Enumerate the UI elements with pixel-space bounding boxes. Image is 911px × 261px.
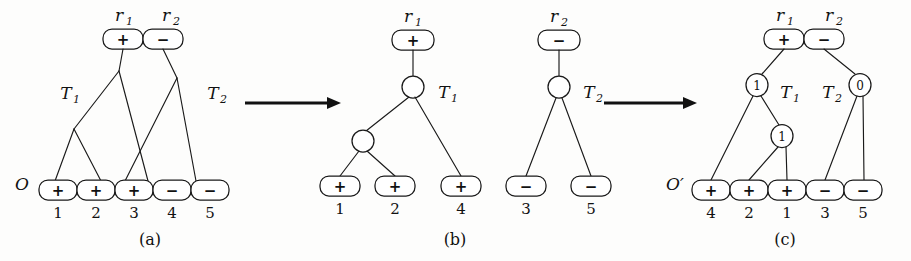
arrow-b-to-c	[604, 97, 697, 109]
panel-c-leaf-index-1: 4	[706, 204, 716, 222]
panel-c-edge-t2root-leaf3	[825, 96, 857, 180]
r2-label-sub: 2	[172, 15, 180, 28]
r1-label-sub: 1	[126, 15, 133, 28]
panel-c-T2-sub: 2	[834, 92, 842, 105]
panel-c-edge-root1-t1node	[762, 49, 784, 74]
panel-b-leaf-index-1: 1	[335, 200, 345, 218]
panel-a-edge-inner-leaf1	[55, 129, 74, 181]
panel-c-leaf-index-3: 1	[782, 204, 792, 222]
panel-a-edge-apex2-leaf4	[125, 78, 177, 181]
panel-a: r 1 r 2 + − T 1 T 2 O	[15, 5, 229, 249]
panel-c-leaf-index-4: 3	[820, 204, 830, 222]
panel-c-r1-sub: 1	[787, 15, 794, 28]
panel-c-edge-t1child-leaf1	[786, 147, 787, 180]
panel-b-leaf-sign-5: −	[585, 178, 598, 196]
panel-b-edge-t1child-leaf1	[340, 151, 359, 176]
panel-b-leaf-index-5: 5	[586, 200, 596, 218]
panel-b-root-label-r2: r 2	[550, 6, 568, 29]
panel-b-T1-text: T	[438, 82, 451, 102]
panel-a-leaf-index-4: 4	[167, 204, 177, 222]
panel-c-r1-text: r	[776, 5, 785, 25]
panel-c-leaf-sign-1: +	[705, 182, 718, 200]
arrow-a-to-b	[245, 97, 341, 109]
panel-b-T1-sub: 1	[451, 92, 458, 105]
panel-a-leaf-sign-5: −	[204, 182, 217, 200]
panel-a-leaf-sign-1: +	[52, 182, 65, 200]
panel-b-r2-text: r	[550, 6, 559, 26]
panel-a-leaf-index-2: 2	[91, 204, 101, 222]
panel-b-internal-node-t1-root[interactable]	[402, 76, 424, 98]
panel-c-r2-sub: 2	[835, 15, 843, 28]
panel-b-edge-t2root-leaf5	[562, 98, 591, 176]
panel-b-edge-t1child-leaf2	[367, 151, 395, 176]
panel-c-leaf-sign-5: −	[857, 182, 870, 200]
r2-label-text: r	[162, 5, 171, 25]
T1-label-text: T	[60, 83, 73, 103]
panel-c-sequence-label: O′	[666, 174, 684, 194]
panel-c-T1-text: T	[780, 82, 793, 102]
panel-b-internal-node-t2-root[interactable]	[548, 76, 570, 98]
panel-a-sequence-label: O	[15, 174, 29, 194]
panel-c-edge-t1child-leaf2	[749, 147, 778, 180]
arrow-b-to-c-head-icon	[683, 97, 697, 109]
panel-a-edge-apex2-leaf5	[177, 78, 196, 181]
panel-a-leaf-sign-2: +	[90, 182, 103, 200]
panel-b-T2-sub: 2	[595, 92, 603, 105]
panel-b-root-label-r1: r 1	[404, 6, 422, 29]
panel-b-r1-text: r	[404, 6, 413, 26]
panel-b-r2-sub: 2	[560, 16, 568, 29]
panel-c-root-label-r1: r 1	[776, 5, 794, 28]
panel-c-root-label-r2: r 2	[825, 5, 843, 28]
panel-c-leaf-index-2: 2	[744, 204, 754, 222]
panel-b-tree-label-T2: T 2	[583, 82, 603, 105]
T1-label-sub: 1	[73, 93, 80, 106]
panel-b-leaf-index-4: 4	[456, 200, 466, 218]
panel-c-internal-node-t1-root-value: 1	[753, 79, 761, 93]
panel-c: r 1 r 2 + − 1 0 1 T 1	[666, 5, 882, 249]
panel-c-leaf-sign-2: +	[743, 182, 756, 200]
panel-a-caption: (a)	[139, 230, 161, 249]
panel-a-root-label-r1: r 1	[115, 5, 133, 28]
panel-c-leaf-index-5: 5	[858, 204, 868, 222]
panel-c-r2-text: r	[825, 5, 834, 25]
panel-b: r 1 r 2 + − T 1 T 2	[320, 6, 611, 249]
panel-c-edge-t1root-t1child	[761, 96, 779, 125]
T2-label-sub: 2	[219, 93, 227, 106]
panel-c-edge-t2root-leaf5	[863, 96, 864, 180]
T2-label-text: T	[207, 83, 220, 103]
panel-c-internal-node-t1-child-value: 1	[778, 130, 786, 144]
figure-svg: r 1 r 2 + − T 1 T 2 O	[0, 0, 911, 261]
panel-b-leaf-index-2: 2	[390, 200, 400, 218]
panel-c-caption: (c)	[774, 230, 795, 249]
panel-a-leaf-index-1: 1	[53, 204, 63, 222]
panel-a-leaf-index-5: 5	[205, 204, 215, 222]
panel-b-leaf-sign-2: +	[389, 178, 402, 196]
panel-c-tree-label-T1: T 1	[780, 82, 800, 105]
panel-b-internal-node-t1-child[interactable]	[352, 130, 374, 152]
panel-a-tree-label-T1: T 1	[60, 83, 80, 106]
panel-c-tree-label-T2: T 2	[822, 82, 842, 105]
panel-b-edge-t1root-t1child	[366, 97, 409, 131]
panel-a-leaf-index-3: 3	[129, 204, 139, 222]
panel-b-r1-sub: 1	[415, 16, 422, 29]
r1-label-text: r	[115, 5, 124, 25]
panel-c-edge-t1root-leaf4	[711, 96, 753, 180]
arrow-a-to-b-head-icon	[327, 97, 341, 109]
panel-a-edge-inner-leaf2	[74, 129, 101, 181]
panel-b-tree-label-T1: T 1	[438, 82, 458, 105]
panel-c-edge-root2-t2node	[824, 49, 855, 74]
panel-a-edge-root1-apex	[119, 49, 123, 71]
panel-b-caption: (b)	[444, 230, 467, 249]
panel-c-root-sign-1: +	[778, 31, 791, 49]
panel-c-leaf-sign-4: −	[819, 182, 832, 200]
panel-b-leaf-sign-1: +	[334, 178, 347, 196]
panel-b-root-sign-1: +	[407, 32, 420, 50]
panel-b-root-sign-2: −	[553, 32, 566, 50]
panel-a-leaf-sign-4: −	[166, 182, 179, 200]
panel-a-root-sign-2: −	[157, 31, 170, 49]
panel-b-edge-t2root-leaf3	[526, 98, 556, 176]
panel-c-leaf-sign-3: +	[781, 182, 794, 200]
panel-a-leaf-sign-3: +	[128, 182, 141, 200]
panel-a-tree-label-T2: T 2	[207, 83, 227, 106]
panel-b-leaf-sign-3: −	[520, 178, 533, 196]
